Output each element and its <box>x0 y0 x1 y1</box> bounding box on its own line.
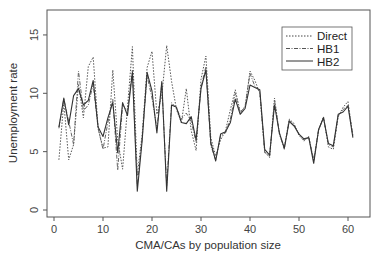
line-chart: 051015 0102030405060 CMA/CAs by populati… <box>0 0 381 266</box>
x-tick-label: 50 <box>293 223 305 235</box>
legend-label-hb2: HB2 <box>317 56 339 68</box>
x-axis-title: CMA/CAs by population size <box>135 239 281 251</box>
series-line-hb2 <box>59 70 353 191</box>
y-axis: 051015 <box>28 29 47 213</box>
x-tick-label: 40 <box>244 223 256 235</box>
y-tick-label: 10 <box>28 87 40 99</box>
series-line-hb1 <box>59 67 353 186</box>
legend-label-hb1: HB1 <box>317 43 339 55</box>
x-axis: 0102030405060 <box>51 217 354 235</box>
x-tick-label: 20 <box>146 223 158 235</box>
y-axis-title: Unemployment rate <box>7 63 19 163</box>
x-tick-label: 30 <box>195 223 207 235</box>
y-tick-label: 0 <box>28 207 40 213</box>
y-tick-label: 5 <box>28 149 40 155</box>
y-tick-label: 15 <box>28 29 40 41</box>
x-tick-label: 0 <box>51 223 57 235</box>
legend: Direct HB1 HB2 <box>282 27 352 70</box>
legend-label-direct: Direct <box>317 30 348 42</box>
x-tick-label: 10 <box>97 223 109 235</box>
x-tick-label: 60 <box>342 223 354 235</box>
